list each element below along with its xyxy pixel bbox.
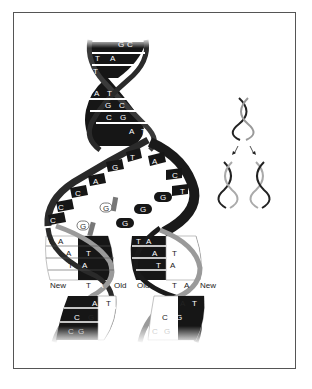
base-label: A: [98, 281, 104, 290]
label-new-left: New: [50, 281, 66, 290]
parent-helix: G C T A T A T G C C G A T: [84, 38, 154, 150]
label-old-right: Old: [137, 281, 149, 290]
base-label: A: [66, 249, 72, 258]
base-label: T: [156, 261, 161, 270]
daughter-helix-right: T A A T T A T A A T C G C G Old New: [128, 228, 218, 344]
base-label: T: [93, 67, 98, 76]
svg-text:G: G: [80, 222, 86, 231]
free-nucleotide: G: [100, 197, 118, 213]
base-label: C: [106, 113, 112, 122]
base-label: T: [86, 281, 91, 290]
base-label: T: [107, 89, 112, 98]
base-label: A: [129, 127, 135, 136]
base-label: A: [184, 281, 190, 290]
base-label: A: [110, 54, 116, 63]
dna-replication-diagram: G C T A T A T G C C G A T: [0, 0, 312, 389]
base-label: C: [172, 171, 178, 180]
base-label: A: [152, 157, 158, 166]
daughter-helix-left: T A A T T A T A A T C G C G New Old: [40, 226, 130, 344]
base-label: A: [180, 299, 186, 308]
base-label: T: [141, 127, 146, 136]
base-label: C: [75, 189, 81, 198]
label-new-right: New: [200, 281, 216, 290]
base-label: C: [119, 101, 125, 110]
replication-fork: T G A C C C A C T G G G G: [48, 140, 195, 237]
base-label: C: [50, 216, 56, 225]
base-label: T: [68, 261, 73, 270]
inset-replication-overview: [218, 98, 269, 208]
base-label: T: [172, 281, 177, 290]
base-label: T: [106, 299, 111, 308]
svg-text:G: G: [103, 204, 109, 213]
base-label: C: [74, 313, 80, 322]
base-label: T: [95, 54, 100, 63]
base-label: G: [112, 163, 118, 172]
base-label: G: [140, 205, 146, 214]
base-label: T: [136, 237, 141, 246]
label-old-left: Old: [114, 281, 126, 290]
down-left-arrow: [232, 146, 238, 155]
base-label: T: [172, 249, 177, 258]
base-label: A: [152, 249, 158, 258]
base-label: C: [162, 313, 168, 322]
base-label: G: [88, 313, 94, 322]
base-label: T: [180, 187, 185, 196]
base-label: A: [58, 237, 64, 246]
small-daughter-helix-left-icon: [218, 162, 237, 208]
base-label: T: [48, 237, 53, 246]
base-label: A: [146, 237, 152, 246]
base-label: G: [122, 219, 128, 228]
down-right-arrow: [250, 146, 256, 155]
base-label: A: [82, 261, 88, 270]
base-label: T: [86, 249, 91, 258]
base-label: T: [192, 299, 197, 308]
base-label: C: [58, 203, 64, 212]
base-label: G: [105, 101, 111, 110]
small-daughter-helix-right-icon: [250, 162, 269, 208]
base-label: A: [92, 299, 98, 308]
base-label: T: [130, 153, 135, 162]
base-label: A: [93, 177, 99, 186]
base-label: G: [160, 193, 166, 202]
small-parent-helix-icon: [233, 98, 254, 140]
base-label: A: [94, 89, 100, 98]
base-label: G: [176, 313, 182, 322]
base-label: G: [120, 113, 126, 122]
base-label: A: [170, 261, 176, 270]
